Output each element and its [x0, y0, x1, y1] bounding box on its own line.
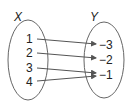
domain-value-3: 3 [26, 62, 33, 74]
range-label: Y [90, 11, 98, 23]
range-value-neg3: −3 [99, 39, 113, 51]
arrow-3-to-neg1 [37, 68, 96, 73]
range-value-neg1: −1 [99, 69, 113, 81]
range-value-neg2: −2 [99, 54, 113, 66]
domain-value-4: 4 [26, 76, 33, 88]
domain-value-2: 2 [26, 47, 33, 59]
domain-label: X [14, 11, 22, 23]
arrow-2-to-neg2 [37, 53, 96, 58]
domain-value-1: 1 [26, 33, 33, 45]
